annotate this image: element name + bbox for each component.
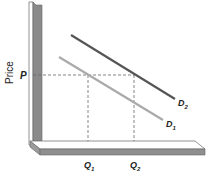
q2-tick-label: Q2 [130,160,141,172]
price-tick-label: P [20,70,27,81]
y-axis-label: Price [4,61,15,84]
y-axis-front [29,2,33,145]
d2-label: D2 [178,98,189,110]
demand-shift-chart: Price P Q1 Q2 D1 D2 [0,0,207,180]
demand-curve-d2 [71,35,175,99]
y-axis-side [33,2,42,141]
d1-label: D1 [166,119,177,131]
x-axis-face [40,149,205,155]
q1-tick-label: Q1 [84,160,95,172]
demand-curve-d1 [59,57,163,120]
x-axis-top [30,141,205,149]
